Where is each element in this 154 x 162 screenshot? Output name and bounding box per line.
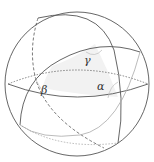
label-gamma: γ	[84, 54, 91, 67]
label-beta: β	[40, 84, 47, 97]
label-alpha: α	[97, 80, 105, 93]
spherical-triangle-fill	[42, 44, 118, 97]
sphere-diagram: γ β α	[0, 0, 154, 162]
great-circle-3	[22, 126, 118, 145]
